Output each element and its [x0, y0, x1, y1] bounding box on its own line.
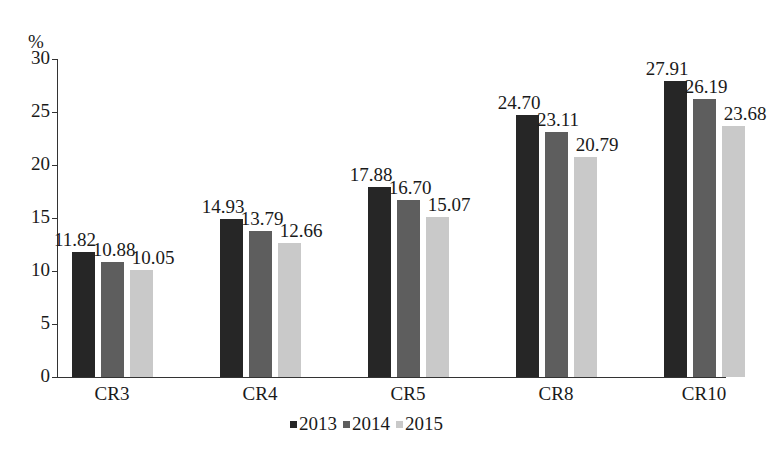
data-label: 20.79: [562, 135, 632, 155]
y-tick-label: 25: [20, 101, 50, 121]
data-label: 23.11: [523, 110, 593, 130]
bar-cr5-2014: [397, 200, 420, 377]
x-axis-line: [57, 377, 726, 378]
legend-item-2014: 2014: [343, 413, 390, 435]
data-label: 15.07: [414, 195, 484, 215]
legend: 201320142015: [290, 413, 449, 435]
bar-cr8-2014: [545, 132, 568, 377]
bar-cr4-2015: [278, 243, 301, 377]
data-label: 10.05: [118, 248, 188, 268]
y-tick-label: 15: [20, 207, 50, 227]
x-category-label: CR5: [358, 384, 458, 404]
bar-cr8-2013: [516, 115, 539, 377]
legend-swatch-icon: [343, 421, 350, 428]
data-label: 12.66: [266, 221, 336, 241]
y-tick: [52, 271, 57, 272]
legend-label: 2014: [352, 413, 390, 435]
y-tick: [52, 165, 57, 166]
bar-cr10-2013: [664, 81, 687, 377]
y-tick: [52, 112, 57, 113]
bar-cr10-2015: [722, 126, 745, 377]
data-label: 26.19: [671, 77, 741, 97]
x-category-label: CR4: [210, 384, 310, 404]
bar-cr4-2014: [249, 231, 272, 377]
x-category-label: CR3: [62, 384, 162, 404]
bar-cr8-2015: [574, 157, 597, 377]
y-tick-label: 0: [20, 366, 50, 386]
y-tick-label: 5: [20, 313, 50, 333]
y-axis-line: [57, 59, 58, 378]
legend-swatch-icon: [290, 421, 297, 428]
bar-cr10-2014: [693, 99, 716, 377]
y-tick-label: 10: [20, 260, 50, 280]
legend-item-2013: 2013: [290, 413, 337, 435]
bar-cr5-2013: [368, 187, 391, 377]
x-category-label: CR8: [506, 384, 606, 404]
y-tick: [52, 324, 57, 325]
legend-swatch-icon: [396, 421, 403, 428]
bar-cr3-2015: [130, 270, 153, 377]
bar-cr4-2013: [220, 219, 243, 377]
y-tick: [52, 59, 57, 60]
y-tick-label: 20: [20, 154, 50, 174]
y-tick-label: 30: [20, 48, 50, 68]
legend-label: 2015: [405, 413, 443, 435]
y-tick: [52, 377, 57, 378]
legend-item-2015: 2015: [396, 413, 443, 435]
legend-label: 2013: [299, 413, 337, 435]
x-category-label: CR10: [654, 384, 754, 404]
bar-cr3-2013: [72, 252, 95, 377]
data-label: 23.68: [710, 104, 771, 124]
bar-cr3-2014: [101, 262, 124, 377]
bar-cr5-2015: [426, 217, 449, 377]
y-tick: [52, 218, 57, 219]
